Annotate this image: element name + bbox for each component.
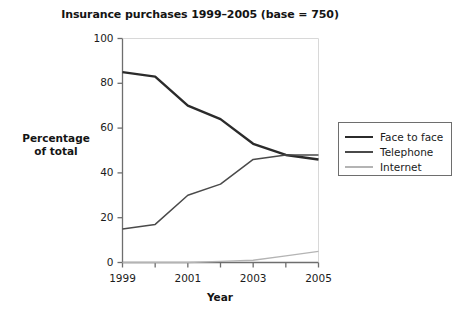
y-tick-label: 40 (88, 166, 114, 178)
y-tick-label: 80 (88, 76, 114, 88)
line-chart-figure: Insurance purchases 1999–2005 (base = 75… (0, 0, 466, 318)
legend-item-label: Telephone (380, 146, 433, 158)
legend-item-label: Face to face (380, 131, 443, 143)
legend-item-label: Internet (380, 161, 422, 173)
x-tick-label: 2005 (299, 272, 339, 284)
x-tick-label: 2001 (168, 272, 208, 284)
legend-item-face-to-face[interactable]: Face to face (345, 129, 443, 145)
series-line-face-to-face (123, 72, 319, 159)
x-axis-title: Year (122, 291, 318, 303)
data-series-group (123, 72, 319, 262)
axes (123, 39, 319, 263)
series-line-telephone (123, 155, 319, 229)
y-tick-label: 20 (88, 211, 114, 223)
legend-item-telephone[interactable]: Telephone (345, 144, 433, 160)
y-tick-label: 100 (88, 32, 114, 44)
legend-swatch-icon (345, 136, 373, 138)
series-line-internet (123, 251, 319, 262)
x-tick-label: 2003 (233, 272, 273, 284)
axis-ticks (118, 39, 319, 268)
y-tick-label: 0 (88, 256, 114, 268)
y-tick-label: 60 (88, 121, 114, 133)
x-tick-label: 1999 (103, 272, 143, 284)
chart-legend: Face to faceTelephoneInternet (338, 122, 452, 176)
legend-swatch-icon (345, 151, 373, 153)
legend-swatch-icon (345, 166, 373, 167)
legend-item-internet[interactable]: Internet (345, 159, 422, 175)
